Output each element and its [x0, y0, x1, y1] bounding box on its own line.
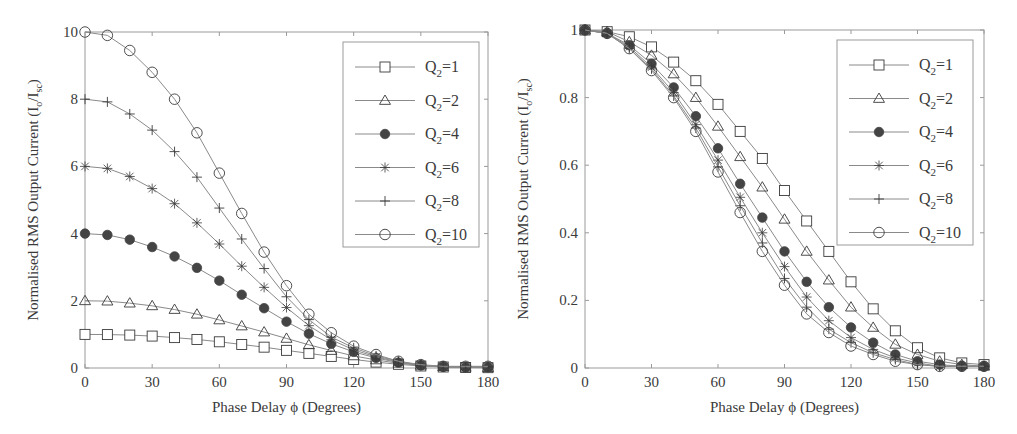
- x-tick-label: 150: [906, 374, 929, 390]
- y-tick-label: 2: [71, 293, 79, 309]
- x-tick-label: 120: [342, 374, 365, 390]
- data-point: [713, 121, 724, 130]
- data-point: [802, 277, 812, 287]
- data-point: [780, 247, 790, 257]
- data-point: [913, 343, 923, 353]
- data-point: [691, 76, 701, 86]
- x-tick-label: 180: [477, 374, 500, 390]
- data-point: [823, 275, 834, 284]
- y-tick-label: 0: [571, 360, 579, 376]
- legend: Q2=1Q2=2Q2=4Q2=6Q2=8Q2=10: [343, 42, 479, 247]
- legend-marker-icon: [874, 60, 884, 70]
- data-point: [192, 334, 202, 344]
- data-point: [102, 163, 112, 173]
- data-point: [237, 339, 247, 349]
- data-point: [80, 229, 90, 239]
- y-tick-label: 0: [71, 360, 79, 376]
- data-point: [125, 171, 135, 181]
- data-point: [282, 317, 292, 327]
- data-point: [237, 234, 247, 244]
- data-point: [326, 351, 336, 361]
- x-tick-label: 0: [81, 374, 89, 390]
- legend-marker-icon: [380, 163, 390, 173]
- data-point: [713, 144, 723, 154]
- x-tick-label: 180: [973, 374, 996, 390]
- legend-marker-icon: [380, 62, 390, 72]
- data-point: [304, 348, 314, 358]
- data-point: [802, 292, 812, 302]
- y-tick-label: 4: [71, 226, 79, 242]
- x-tick-label: 120: [840, 374, 863, 390]
- data-point: [780, 262, 790, 272]
- chart-left-svg: 03060901201501800246810Phase Delay ϕ (De…: [0, 0, 508, 434]
- x-tick-label: 60: [711, 374, 726, 390]
- data-point: [170, 252, 180, 262]
- data-point: [780, 186, 790, 196]
- data-point: [890, 339, 901, 348]
- data-point: [713, 99, 723, 109]
- data-point: [890, 326, 900, 336]
- data-point: [215, 276, 225, 286]
- x-tick-label: 150: [410, 374, 433, 390]
- x-tick-label: 30: [145, 374, 160, 390]
- data-point: [735, 179, 745, 189]
- data-point: [125, 330, 135, 340]
- x-tick-label: 90: [777, 374, 792, 390]
- y-tick-label: 0.2: [559, 292, 578, 308]
- y-axis-label: Normalised RMS Output Current (Io/Isc): [515, 78, 534, 320]
- y-tick-label: 0.4: [559, 225, 578, 241]
- x-tick-label: 30: [644, 374, 659, 390]
- y-axis-label: Normalised RMS Output Current (Io/Isc): [25, 79, 44, 321]
- data-point: [668, 68, 679, 77]
- x-axis-label: Phase Delay ϕ (Degrees): [710, 399, 859, 416]
- chart-right-normalised-current: 030609012015018000.20.40.60.81Phase Dela…: [508, 0, 1017, 434]
- data-point: [259, 303, 269, 313]
- data-point: [757, 153, 767, 163]
- data-point: [102, 330, 112, 340]
- legend-marker-icon: [380, 129, 390, 139]
- data-point: [735, 126, 745, 136]
- data-point: [758, 213, 768, 223]
- data-point: [147, 184, 157, 194]
- y-tick-label: 1: [571, 22, 579, 38]
- data-point: [214, 239, 224, 249]
- data-point: [868, 304, 878, 314]
- data-point: [80, 94, 90, 104]
- legend: Q2=1Q2=2Q2=4Q2=6Q2=8Q2=10: [837, 40, 973, 245]
- data-point: [125, 109, 135, 119]
- x-tick-label: 0: [581, 374, 589, 390]
- x-tick-label: 60: [212, 374, 227, 390]
- y-tick-label: 0.8: [559, 90, 578, 106]
- data-point: [80, 161, 90, 171]
- legend-marker-icon: [874, 161, 884, 171]
- data-point: [125, 235, 135, 245]
- data-point: [802, 216, 812, 226]
- data-point: [846, 323, 856, 333]
- data-point: [170, 199, 180, 209]
- chart-left-absolute-current: 03060901201501800246810Phase Delay ϕ (De…: [0, 0, 508, 434]
- data-point: [669, 57, 679, 67]
- data-point: [259, 264, 269, 274]
- y-tick-label: 6: [71, 158, 79, 174]
- y-tick-label: 0.6: [559, 157, 578, 173]
- data-point: [80, 329, 90, 339]
- data-point: [846, 277, 856, 287]
- x-axis-label: Phase Delay ϕ (Degrees): [212, 399, 361, 416]
- data-point: [147, 242, 157, 252]
- data-point: [237, 261, 247, 271]
- data-point: [102, 97, 112, 107]
- data-point: [259, 342, 269, 352]
- y-tick-label: 8: [71, 91, 79, 107]
- legend-marker-icon: [874, 127, 884, 137]
- data-point: [192, 263, 202, 273]
- data-point: [780, 273, 790, 283]
- data-point: [147, 331, 157, 341]
- data-point: [192, 218, 202, 228]
- data-point: [824, 302, 834, 312]
- data-point: [214, 337, 224, 347]
- data-point: [282, 303, 292, 313]
- data-point: [824, 246, 834, 256]
- data-point: [282, 345, 292, 355]
- data-point: [214, 203, 224, 213]
- data-point: [237, 290, 247, 300]
